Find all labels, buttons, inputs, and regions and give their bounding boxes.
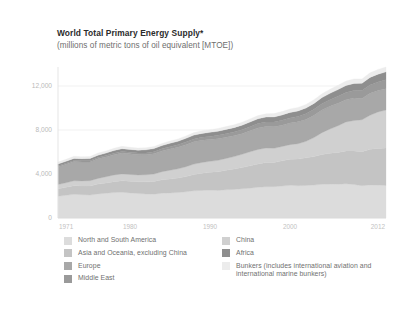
chart-title: World Total Primary Energy Supply* [57, 28, 377, 39]
legend-item-label: Middle East [78, 274, 115, 283]
legend-item-label: Asia and Oceania, excluding China [78, 249, 187, 258]
legend-swatch-icon [64, 275, 72, 283]
legend-column-left: North and South AmericaAsia and Oceania,… [64, 236, 224, 287]
legend-column-right: ChinaAfricaBunkers (includes internation… [222, 236, 397, 283]
legend-item[interactable]: Middle East [64, 274, 224, 283]
legend-item[interactable]: North and South America [64, 236, 224, 245]
legend-swatch-icon [222, 262, 230, 270]
legend-item[interactable]: Bunkers (includes international aviation… [222, 262, 397, 279]
y-axis-tick-label: 4,000 [35, 170, 52, 177]
x-axis-tick-label: 2012 [371, 223, 386, 230]
y-axis-tick-label: 12,000 [32, 82, 53, 89]
x-axis-tick-label: 1971 [59, 223, 74, 230]
legend-swatch-icon [64, 249, 72, 257]
stacked-area-chart: 04,0008,00012,00019711980199020002012 [20, 60, 388, 235]
legend-item-label: Europe [78, 262, 101, 271]
chart-figure: World Total Primary Energy Supply* (mill… [0, 0, 403, 312]
legend-item[interactable]: Europe [64, 262, 224, 271]
x-axis-tick-label: 1990 [203, 223, 218, 230]
y-axis-tick-label: 0 [48, 214, 52, 221]
x-axis-tick-label: 2000 [283, 223, 298, 230]
legend-swatch-icon [64, 262, 72, 270]
y-axis-tick-label: 8,000 [35, 126, 52, 133]
legend-item-label: China [236, 236, 254, 245]
legend-item-label: Africa [236, 249, 254, 258]
legend-swatch-icon [222, 249, 230, 257]
chart-plot-area: 04,0008,00012,00019711980199020002012 [20, 60, 388, 235]
x-axis-tick-label: 1980 [123, 223, 138, 230]
legend-item-label: Bunkers (includes international aviation… [236, 262, 397, 279]
legend-item-label: North and South America [78, 236, 156, 245]
chart-subtitle: (millions of metric tons of oil equivale… [57, 40, 377, 51]
legend-item[interactable]: China [222, 236, 397, 245]
legend-swatch-icon [222, 237, 230, 245]
chart-header: World Total Primary Energy Supply* (mill… [57, 28, 377, 51]
legend-swatch-icon [64, 237, 72, 245]
legend-item[interactable]: Asia and Oceania, excluding China [64, 249, 224, 258]
legend-item[interactable]: Africa [222, 249, 397, 258]
